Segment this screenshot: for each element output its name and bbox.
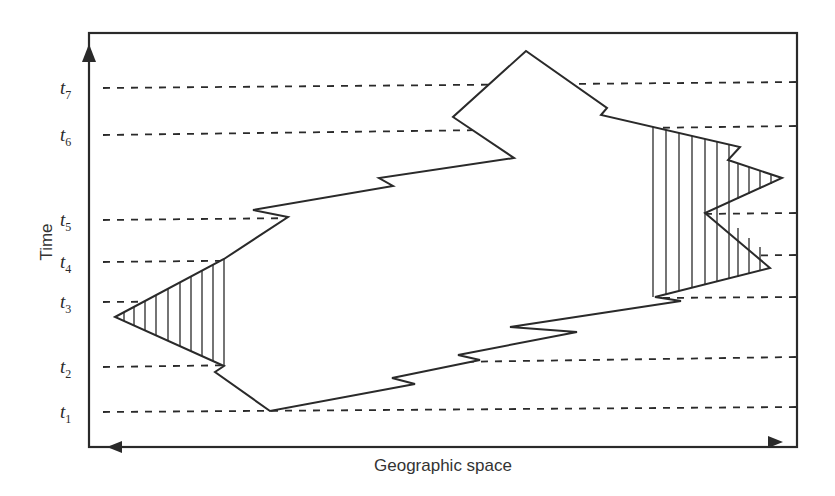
arrow-up-icon xyxy=(82,44,96,62)
main-region-fill xyxy=(115,51,782,411)
label-t5: t5 xyxy=(60,209,71,234)
label-t4: t4 xyxy=(60,251,71,276)
label-t3: t3 xyxy=(60,291,71,316)
label-t6: t6 xyxy=(60,124,71,149)
label-t2: t2 xyxy=(60,356,71,381)
gridline-t6 xyxy=(103,126,797,135)
y-axis-label: Time xyxy=(37,223,56,260)
space-time-diagram: t7 t6 t5 t4 t3 t2 t1 Time Geographic spa… xyxy=(0,0,835,496)
label-t7: t7 xyxy=(60,77,71,102)
gridline-t1 xyxy=(103,407,797,412)
time-labels: t7 t6 t5 t4 t3 t2 t1 xyxy=(60,77,71,426)
x-axis-label: Geographic space xyxy=(374,456,512,475)
gridline-t7 xyxy=(103,82,797,88)
arrow-left-icon xyxy=(107,441,122,453)
label-t1: t1 xyxy=(60,401,71,426)
